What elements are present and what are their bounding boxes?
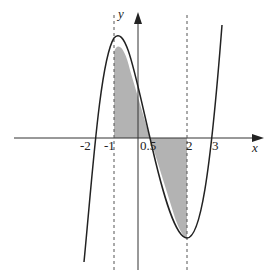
tick-label: 3	[212, 138, 219, 154]
tick-label: 0.5	[140, 138, 156, 154]
tick-label: 2	[186, 138, 193, 154]
graph-svg	[0, 0, 274, 275]
shaded-area	[114, 46, 150, 138]
diagram: y x -2 -1 0.5 2 3	[0, 0, 274, 275]
tick-label: -1	[104, 138, 115, 154]
y-axis-label: y	[118, 6, 124, 22]
x-axis-label: x	[252, 140, 258, 156]
tick-label: -2	[80, 138, 91, 154]
y-axis-arrow-icon	[134, 12, 142, 24]
